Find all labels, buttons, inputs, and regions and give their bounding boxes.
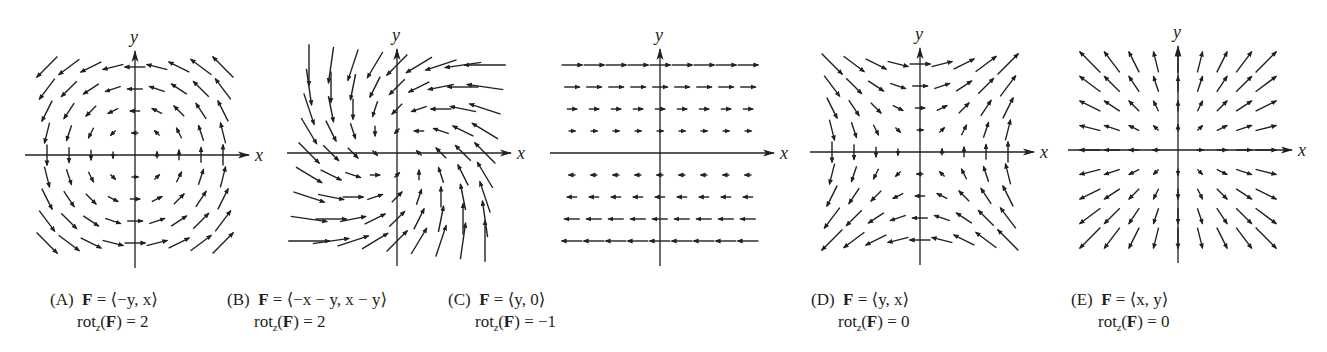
field-arrow: [88, 172, 93, 182]
caption-A: (A) F = ⟨−y, x⟩ rotz(F) = 2: [50, 289, 158, 338]
field-arrow: [895, 171, 900, 176]
field-arrow: [66, 169, 71, 185]
field-arrow: [321, 170, 342, 180]
field-arrow: [193, 213, 209, 229]
field-arrow: [871, 103, 881, 113]
field-arrow: [61, 213, 77, 229]
field-arrow: [433, 128, 449, 133]
field-arrow: [998, 230, 1019, 251]
rot-line: rotz(F) = 0: [811, 311, 910, 338]
field-arrow: [1217, 125, 1227, 130]
y-axis-label: y: [390, 25, 400, 45]
panel-E: xy: [1068, 22, 1306, 263]
field-arrow: [362, 233, 388, 249]
field-arrow: [152, 196, 162, 201]
field-arrow: [86, 106, 96, 116]
field-arrow: [372, 101, 377, 117]
field-arrow: [438, 206, 443, 232]
field-arrow: [1217, 169, 1227, 174]
field-arrow: [890, 215, 906, 220]
field-symbol: F: [1101, 290, 1111, 309]
field-arrow: [1005, 120, 1010, 141]
panel-label: (A): [50, 290, 74, 309]
field-arrow: [218, 101, 228, 122]
field-arrow: [844, 232, 865, 248]
field-arrow: [956, 81, 972, 91]
field-arrow: [1236, 52, 1252, 73]
field-arrow: [370, 77, 380, 98]
field-arrow: [301, 118, 317, 144]
field-arrow: [37, 57, 58, 78]
field-arrow: [458, 165, 468, 186]
field-arrow: [978, 210, 994, 226]
field-arrow: [1129, 189, 1139, 199]
panel-label: (C): [448, 290, 471, 309]
field-arrow: [1129, 76, 1139, 92]
field-arrow: [367, 52, 383, 78]
field-arrow: [981, 100, 991, 116]
field-arrow: [1080, 52, 1101, 73]
field-arrow: [822, 54, 843, 75]
field-arrow: [367, 194, 383, 199]
field-arrow: [1104, 189, 1120, 199]
field-arrow: [1197, 52, 1202, 73]
field-arrow: [829, 164, 834, 185]
field-arrow: [176, 128, 181, 138]
field-arrow: [1236, 208, 1252, 224]
field-arrow: [105, 86, 121, 91]
field-arrow: [844, 56, 865, 72]
field-arrow: [1104, 52, 1120, 73]
field-arrow: [147, 64, 168, 69]
field-arrow: [1129, 52, 1139, 73]
field-arrow: [954, 235, 975, 245]
field-arrow: [871, 191, 881, 201]
field-arrow: [293, 192, 324, 202]
field-arrow: [976, 232, 997, 248]
field-formula: = ⟨x, y⟩: [1116, 290, 1169, 309]
field-arrow: [1197, 189, 1202, 199]
field-arrow: [851, 122, 856, 138]
field-arrow: [1104, 169, 1120, 174]
field-arrow: [149, 218, 165, 223]
field-arrow: [868, 213, 884, 223]
field-arrow: [147, 240, 168, 245]
field-arrow: [64, 191, 74, 207]
field-arrow: [1104, 125, 1120, 130]
rot-subscript: z: [96, 321, 100, 333]
field-arrow: [934, 83, 950, 88]
field-arrow: [438, 167, 443, 183]
field-arrow: [939, 127, 944, 132]
caption-E: (E) F = ⟨x, y⟩ rotz(F) = 0: [1071, 289, 1170, 338]
field-arrow: [220, 123, 225, 144]
rot-text: rot: [77, 312, 96, 331]
field-arrow: [1256, 208, 1277, 224]
field-arrow: [851, 166, 856, 182]
field-arrow: [1080, 101, 1101, 111]
field-arrow: [425, 60, 456, 70]
field-arrow: [893, 105, 903, 110]
field-arrow: [220, 167, 225, 188]
field-arrow: [171, 216, 187, 226]
field-arrow: [1256, 125, 1277, 130]
field-arrow: [83, 84, 99, 94]
rot-arg: F: [1127, 312, 1137, 331]
rot-text: rot: [475, 312, 494, 331]
field-arrow: [1104, 208, 1120, 224]
field-arrow: [866, 235, 887, 245]
field-arrow: [1153, 228, 1158, 249]
field-arrow: [824, 208, 840, 229]
field-arrow: [350, 74, 355, 100]
rot-subscript: z: [494, 321, 498, 333]
rot-line: rotz(F) = 2: [50, 311, 158, 338]
rot-line: rotz(F) = −1: [448, 311, 556, 338]
y-axis-label: y: [913, 24, 923, 44]
field-arrow: [409, 82, 430, 92]
field-arrow: [827, 98, 837, 119]
field-arrow: [983, 122, 988, 138]
panel-D: xy: [810, 24, 1048, 265]
field-arrow: [822, 230, 843, 251]
field-arrow: [893, 193, 903, 198]
field-arrow: [304, 93, 314, 124]
field-arrow: [1104, 228, 1120, 249]
field-arrow: [198, 169, 203, 185]
